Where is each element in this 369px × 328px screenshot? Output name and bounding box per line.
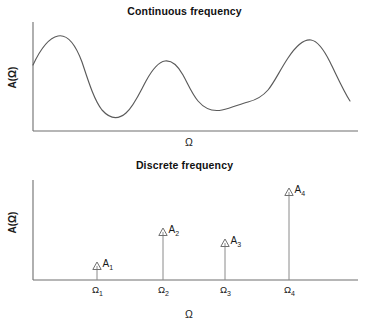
amplitude-label-subscript: 4 [301, 190, 305, 197]
x-tick-label-subscript: 2 [165, 290, 169, 297]
amplitude-label-subscript: 1 [109, 264, 113, 271]
x-tick-label-subscript: 3 [227, 290, 231, 297]
amplitude-label: A2 [169, 224, 180, 237]
amplitude-label-subscript: 2 [175, 230, 179, 237]
panel-discrete-frequency: Discrete frequency A(Ω) A1Ω1A2Ω2A3Ω3A4Ω4… [0, 155, 369, 328]
continuous-spectrum-curve [33, 36, 350, 118]
amplitude-label-subscript: 3 [237, 241, 241, 248]
x-tick-label: Ω1 [92, 284, 103, 297]
x-axis-label-continuous: Ω [0, 136, 369, 148]
amplitude-label: A1 [103, 258, 114, 271]
panel-continuous-frequency: Continuous frequency A(Ω) Ω [0, 0, 369, 155]
x-axis-label-discrete: Ω [0, 308, 369, 320]
amplitude-label: A4 [295, 184, 306, 197]
continuous-frequency-plot [0, 0, 369, 155]
x-tick-label: Ω2 [158, 284, 169, 297]
figure-frequency-spectra: Continuous frequency A(Ω) Ω Discrete fre… [0, 0, 369, 328]
x-tick-label: Ω3 [220, 284, 231, 297]
amplitude-label: A3 [231, 235, 242, 248]
discrete-frequency-plot: A1Ω1A2Ω2A3Ω3A4Ω4 [0, 155, 369, 328]
x-tick-label-subscript: 4 [291, 290, 295, 297]
x-tick-label-subscript: 1 [99, 290, 103, 297]
x-tick-label: Ω4 [284, 284, 295, 297]
